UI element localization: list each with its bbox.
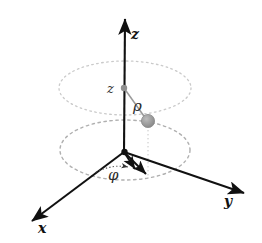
z-height-marker-dot <box>121 85 127 91</box>
x-axis-line <box>32 152 124 221</box>
y-axis-line <box>124 152 244 193</box>
z-axis-label: z <box>130 26 140 42</box>
rho-label: ρ <box>132 97 142 115</box>
origin-dot <box>121 149 127 155</box>
y-axis-label: y <box>223 193 233 209</box>
coordinate-point <box>141 114 154 127</box>
z-height-label: z <box>106 81 114 96</box>
phi-label: φ <box>108 166 119 184</box>
x-axis-label: x <box>37 220 47 236</box>
cylindrical-coordinates-figure: z y x z ρ φ <box>0 0 262 243</box>
coordinate-diagram-svg: z y x z ρ φ <box>0 0 262 243</box>
